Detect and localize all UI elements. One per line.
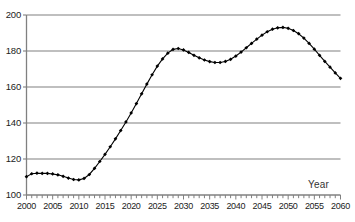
- y-axis-tick-label: 100: [0, 190, 21, 200]
- y-axis-tick-label: 140: [0, 118, 21, 128]
- y-axis-tick-label: 120: [0, 154, 21, 164]
- y-axis-tick-label: 160: [0, 82, 21, 92]
- gridlines: [27, 15, 341, 159]
- x-axis-tick-label: 2060: [324, 202, 355, 211]
- x-axis-title: Year: [308, 180, 329, 190]
- x-axis-ticks: [27, 195, 341, 200]
- y-axis-tick-label: 180: [0, 46, 21, 56]
- data-series-markers: [25, 26, 343, 182]
- y-axis-tick-label: 200: [0, 10, 21, 20]
- axes: [27, 15, 341, 195]
